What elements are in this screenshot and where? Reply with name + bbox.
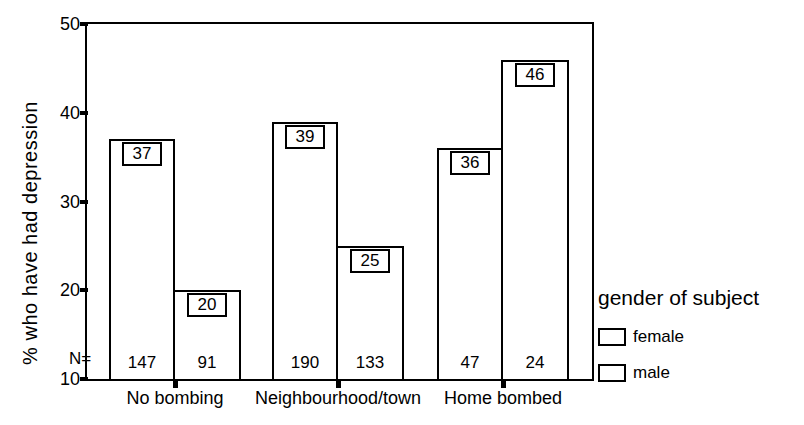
y-tick-50 (80, 22, 88, 26)
x-tick-home-bombed (501, 380, 506, 388)
y-tick-40 (80, 111, 88, 115)
bar-n-label-male-home-bombed: 24 (502, 353, 568, 373)
bar-n-label-female-home-bombed: 47 (437, 353, 503, 373)
bar-value-label-female-no-bombing: 37 (122, 142, 162, 166)
y-tick-label-50: 50 (38, 15, 80, 33)
grouped-bar-chart: % who have had depression N= 1020304050N… (0, 0, 804, 425)
y-tick-20 (80, 288, 88, 292)
bar-value-label-female-home-bombed: 36 (450, 151, 490, 175)
y-axis-title: % who have had depression (19, 101, 42, 365)
bar-value-label-male-no-bombing: 20 (187, 293, 227, 317)
x-tick-neighbourhood-town (336, 380, 341, 388)
male-swatch-icon (598, 364, 626, 382)
x-tick-label-home-bombed: Home bombed (383, 388, 623, 409)
plot-area: 1020304050No bombingNeighbourhood/townHo… (85, 22, 594, 381)
legend-item-female: female (598, 327, 759, 346)
bar-n-label-female-neighbourhood-town: 190 (272, 353, 338, 373)
legend: gender of subject female male (598, 286, 759, 382)
bar-n-label-male-neighbourhood-town: 133 (337, 353, 403, 373)
female-swatch-icon (598, 328, 626, 346)
bar-value-label-male-neighbourhood-town: 25 (350, 249, 390, 273)
y-tick-label-20: 20 (38, 281, 80, 299)
x-tick-no-bombing (173, 380, 178, 388)
legend-label-male: male (633, 363, 670, 383)
y-tick-label-40: 40 (38, 104, 80, 122)
y-tick-30 (80, 200, 88, 204)
bar-n-label-female-no-bombing: 147 (109, 353, 175, 373)
legend-title: gender of subject (598, 286, 759, 310)
bar-value-label-male-home-bombed: 46 (515, 63, 555, 87)
y-tick-label-10: 10 (38, 370, 80, 388)
bar-male-home-bombed (501, 60, 569, 382)
legend-label-female: female (633, 327, 684, 347)
bar-female-no-bombing (109, 139, 175, 381)
y-tick-label-30: 30 (38, 193, 80, 211)
bar-value-label-female-neighbourhood-town: 39 (285, 125, 325, 149)
bar-n-label-male-no-bombing: 91 (174, 353, 240, 373)
bar-female-neighbourhood-town (272, 122, 338, 381)
n-equals-label: N= (69, 349, 91, 369)
legend-item-male: male (598, 363, 759, 382)
bar-female-home-bombed (437, 148, 503, 381)
y-tick-10 (80, 377, 88, 381)
